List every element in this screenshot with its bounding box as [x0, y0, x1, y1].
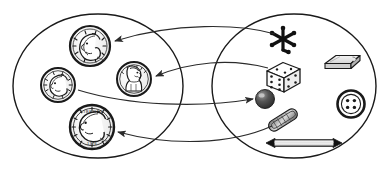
right-set-group[interactable] — [212, 14, 376, 158]
nickel-coin[interactable] — [70, 26, 110, 66]
quarter-coin[interactable]: LIBERTY 1776 — [70, 105, 114, 149]
double-arrow-pencil[interactable] — [266, 138, 342, 147]
marble-sphere[interactable] — [256, 90, 275, 109]
button-4hole[interactable] — [338, 91, 365, 118]
penny-coin[interactable] — [117, 62, 151, 96]
svg-text:LIBERTY: LIBERTY — [81, 109, 103, 114]
dime-coin[interactable] — [41, 68, 75, 102]
arrow-dime-to-marble[interactable] — [78, 90, 253, 104]
arrow-jack-to-nickel[interactable] — [115, 27, 275, 41]
svg-text:1776: 1776 — [87, 142, 97, 146]
arrow-die-to-penny[interactable] — [156, 62, 268, 76]
left-set-group[interactable]: LIBERTY 1776 — [13, 14, 183, 158]
arrow-paperclip-to-quarter[interactable] — [118, 126, 272, 142]
paper-clip[interactable] — [267, 107, 300, 133]
jack-star[interactable] — [272, 28, 294, 52]
die-cube[interactable] — [267, 63, 300, 93]
diagram-canvas: LIBERTY 1776 — [0, 0, 392, 170]
mapping-diagram-svg: LIBERTY 1776 — [0, 0, 392, 170]
eraser[interactable] — [325, 56, 360, 69]
